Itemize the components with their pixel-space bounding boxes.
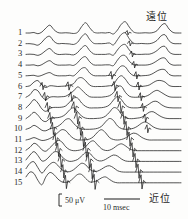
channel-label-1: 1 [6,28,22,37]
trace-line [26,162,181,174]
trace-group [26,22,181,190]
spike-deflection [121,111,128,124]
spike-deflection [134,72,140,79]
trace-line [26,76,181,88]
channel-label-12: 12 [2,146,22,155]
channel-label-11: 11 [2,135,22,144]
electrogram-figure: 123456789101112131415 遠位 近位 50 μV 10 mse… [0,0,188,219]
channel-label-2: 2 [6,39,22,48]
amplitude-scale-label: 50 μV [65,196,85,205]
spike-deflection [139,175,146,189]
spike-deflection [136,164,143,178]
trace-line [26,140,181,151]
spike-deflection [77,122,85,136]
trace-line [26,86,181,100]
spike-deflection [124,121,131,135]
channel-label-9: 9 [6,114,22,123]
distal-label: 遠位 [146,8,167,23]
channel-label-3: 3 [6,49,22,58]
trace-line [26,152,181,162]
spike-deflection [133,153,140,167]
trace-line [26,118,181,130]
channel-label-14: 14 [2,167,22,176]
channel-label-10: 10 [2,124,22,133]
trace-line [26,172,181,185]
channel-label-15: 15 [2,178,22,187]
spike-deflection [45,102,52,112]
amplitude-scale-bar [59,194,62,206]
spike-deflection [74,112,82,124]
spike-deflection [42,92,49,101]
channel-label-4: 4 [6,60,22,69]
trace-line [26,44,181,55]
channel-label-8: 8 [6,103,22,112]
trace-line [26,66,181,76]
proximal-label: 近位 [149,190,170,205]
spike-deflection [143,114,149,122]
trace-line [26,130,181,141]
spike-deflection [125,31,131,35]
trace-line [26,33,181,46]
trace-canvas [0,0,188,219]
channel-label-13: 13 [2,156,22,165]
spike-deflection [127,41,133,46]
channel-label-7: 7 [6,92,22,101]
channel-label-6: 6 [6,82,22,91]
trace-line [26,55,181,66]
spike-deflection [145,125,151,133]
spike-deflection [130,143,137,157]
trace-line [26,22,181,34]
spike-deflection [68,92,76,102]
spike-deflection [71,102,79,113]
spike-deflection [136,82,142,90]
spike-deflection [130,51,136,57]
time-scale-label: 10 msec [103,203,129,212]
channel-label-5: 5 [6,71,22,80]
spike-deflection [112,81,119,90]
